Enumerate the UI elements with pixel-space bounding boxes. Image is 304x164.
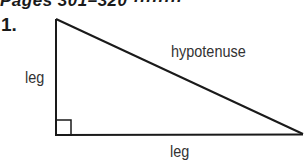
bottom-leg-label: leg	[170, 142, 189, 162]
bottom-leg-line	[55, 135, 303, 136]
hypotenuse-label: hypotenuse	[171, 42, 246, 62]
right-angle-marker	[56, 120, 71, 135]
hypotenuse-line	[56, 19, 303, 134]
left-leg-label: leg	[25, 68, 44, 88]
right-triangle-diagram	[0, 0, 304, 164]
